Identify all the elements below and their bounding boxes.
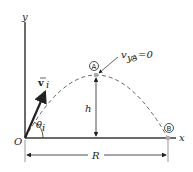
range-label: R: [91, 150, 100, 161]
y-axis-label: y: [21, 11, 28, 22]
point-a-marker: [94, 73, 99, 78]
velocity-subscript: i: [46, 79, 49, 90]
vy-pointer-arrow: [99, 57, 118, 73]
point-b-label: B: [167, 125, 172, 133]
angle-subscript: i: [42, 122, 45, 133]
vy-subscript-point: A: [132, 54, 137, 62]
projectile-diagram: y x O v i θ i h A v y A =0 B R: [0, 0, 193, 172]
point-a-label: A: [92, 63, 97, 71]
velocity-label: v: [37, 77, 45, 88]
vy-value: =0: [138, 49, 153, 60]
x-axis-label: x: [179, 132, 185, 143]
origin-label: O: [14, 136, 22, 147]
point-b-marker: [166, 136, 171, 141]
height-label: h: [85, 103, 91, 114]
